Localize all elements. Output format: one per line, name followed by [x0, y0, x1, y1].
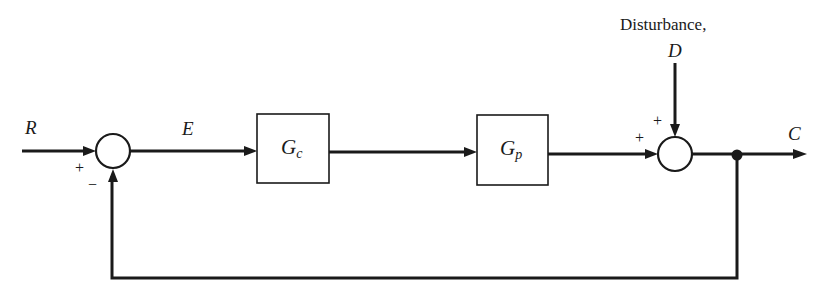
error-label: E	[182, 119, 194, 138]
error-arrowhead-icon	[244, 146, 257, 156]
disturbance-sum-junction	[658, 137, 692, 171]
sum-plus-sign-disturbance: +	[653, 113, 662, 129]
diagram-canvas	[0, 0, 825, 299]
controller-symbol: G	[281, 135, 296, 159]
comparator-plus-sign: +	[75, 160, 84, 176]
output-arrowhead-icon	[793, 149, 807, 159]
disturbance-caption: Disturbance,	[620, 16, 706, 33]
comparator-junction	[96, 134, 130, 168]
output-label: C	[788, 124, 801, 143]
feedback-arrowhead-icon	[108, 169, 118, 182]
sum-plus-sign-process: +	[635, 130, 644, 146]
comparator-minus-sign: −	[88, 177, 97, 193]
process-subscript: p	[515, 147, 522, 162]
process-output-arrowhead-icon	[645, 149, 658, 159]
reference-label: R	[25, 118, 37, 137]
disturbance-arrowhead-icon	[670, 124, 680, 137]
process-block-label: Gp	[500, 138, 522, 162]
controller-output-arrowhead-icon	[464, 147, 477, 157]
reference-arrowhead-icon	[83, 146, 96, 156]
controller-subscript: c	[296, 146, 302, 161]
process-symbol: G	[500, 136, 515, 160]
feedback-path-line	[112, 155, 737, 278]
disturbance-label: D	[668, 41, 682, 60]
controller-block-label: Gc	[281, 137, 302, 161]
